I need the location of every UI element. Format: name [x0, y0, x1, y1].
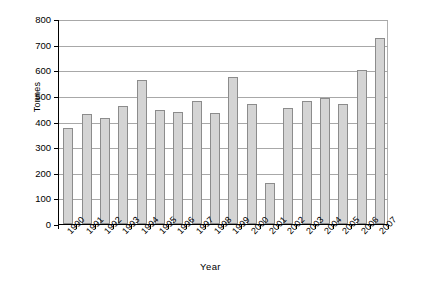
bar-2006 — [357, 70, 367, 224]
bar-1990 — [63, 128, 73, 224]
bar-1993 — [118, 106, 128, 224]
y-tick-label: 200 — [24, 169, 51, 179]
bars-series — [59, 20, 388, 224]
y-tick-label: 400 — [24, 118, 51, 128]
bar-2002 — [283, 108, 293, 224]
bar-1998 — [210, 113, 220, 224]
bar-1996 — [173, 112, 183, 224]
bar-2005 — [338, 104, 348, 224]
y-tick-label: 500 — [24, 92, 51, 102]
y-tick-label: 300 — [24, 143, 51, 153]
bar-2007 — [375, 38, 385, 224]
bar-2003 — [302, 101, 312, 224]
bar-1999 — [228, 77, 238, 224]
bar-2000 — [247, 104, 257, 224]
y-tick-label: 700 — [24, 41, 51, 51]
bar-1991 — [82, 114, 92, 224]
bar-1995 — [155, 110, 165, 224]
x-axis-title: Year — [0, 261, 421, 272]
y-tick-label: 600 — [24, 66, 51, 76]
y-tick-label: 100 — [24, 194, 51, 204]
y-tick-label: 800 — [24, 15, 51, 25]
plot-area — [58, 20, 388, 225]
bar-chart: Tonnes 0100200300400500600700800 1990199… — [0, 0, 421, 282]
bar-2004 — [320, 98, 330, 224]
bar-1997 — [192, 101, 202, 224]
y-tick-label: 0 — [24, 220, 51, 230]
bar-1992 — [100, 118, 110, 224]
bar-1994 — [137, 80, 147, 224]
x-tick-mark — [58, 225, 59, 229]
